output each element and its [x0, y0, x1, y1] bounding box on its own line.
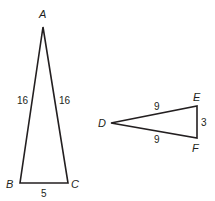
triangle-def: D E F 9 9 3 — [98, 91, 207, 154]
side-label-de: 9 — [154, 101, 160, 112]
triangles-diagram: A B C 16 16 5 D E F 9 9 3 — [0, 0, 215, 201]
side-label-ac: 16 — [59, 95, 71, 106]
side-label-df: 9 — [154, 134, 160, 145]
side-label-bc: 5 — [41, 188, 47, 199]
figure-canvas: A B C 16 16 5 D E F 9 9 3 — [0, 0, 215, 201]
vertex-label-f: F — [192, 142, 200, 154]
side-label-ab: 16 — [17, 95, 29, 106]
side-label-ef: 3 — [201, 117, 207, 128]
vertex-label-b: B — [6, 178, 13, 190]
vertex-label-e: E — [193, 91, 201, 103]
vertex-label-c: C — [71, 178, 79, 190]
vertex-label-d: D — [98, 117, 106, 129]
vertex-label-a: A — [38, 8, 46, 20]
triangle-abc: A B C 16 16 5 — [6, 8, 79, 199]
